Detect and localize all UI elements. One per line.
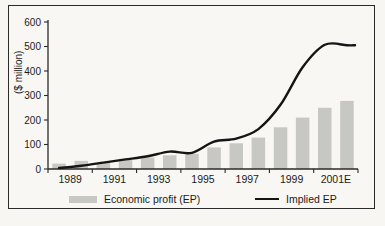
y-tick-label: 600 bbox=[24, 17, 41, 28]
x-tick-label-1989: 1989 bbox=[58, 173, 82, 185]
line-swatch-icon bbox=[255, 198, 279, 201]
bar-1998 bbox=[252, 138, 266, 169]
ep-chart: 6005004003002001000198919911993199519971… bbox=[9, 6, 373, 207]
x-tick-label-1993: 1993 bbox=[147, 173, 171, 185]
bar-1996 bbox=[207, 147, 221, 169]
y-tick-label: 200 bbox=[24, 115, 41, 126]
y-tick-label: 400 bbox=[24, 66, 41, 77]
y-tick-label: 100 bbox=[24, 139, 41, 150]
bar-2000 bbox=[296, 118, 310, 169]
bar-1993 bbox=[141, 158, 155, 170]
x-tick-label-1991: 1991 bbox=[103, 173, 127, 185]
x-tick-label-1995: 1995 bbox=[191, 173, 215, 185]
x-tick-label-2001E: 2001E bbox=[321, 173, 351, 185]
bar-1994 bbox=[163, 155, 177, 169]
legend-item-implied-ep: Implied EP bbox=[255, 193, 337, 205]
x-tick-label-1997: 1997 bbox=[236, 173, 260, 185]
bar-2001E bbox=[318, 108, 332, 169]
legend-label-economic-profit: Economic profit (EP) bbox=[104, 193, 200, 205]
bar-2002E bbox=[340, 101, 354, 169]
y-tick-label: 300 bbox=[24, 90, 41, 101]
y-axis-title: ($ million) bbox=[13, 51, 24, 94]
legend-label-implied-ep: Implied EP bbox=[286, 193, 337, 205]
legend-item-economic-profit: Economic profit (EP) bbox=[69, 193, 200, 205]
y-tick-label: 500 bbox=[24, 41, 41, 52]
bar-1997 bbox=[230, 143, 244, 169]
bar-1995 bbox=[185, 154, 199, 169]
chart-legend: Economic profit (EP) Implied EP bbox=[9, 192, 374, 210]
x-tick-label-1999: 1999 bbox=[280, 173, 304, 185]
y-tick-label: 0 bbox=[35, 164, 41, 175]
implied-ep-line bbox=[59, 43, 355, 168]
bar-1999 bbox=[274, 127, 288, 169]
bar-swatch-icon bbox=[69, 196, 97, 203]
chart-panel: 6005004003002001000198919911993199519971… bbox=[8, 5, 375, 209]
scanned-page: { "chart_data": { "type": "bar+line comb… bbox=[0, 0, 385, 226]
